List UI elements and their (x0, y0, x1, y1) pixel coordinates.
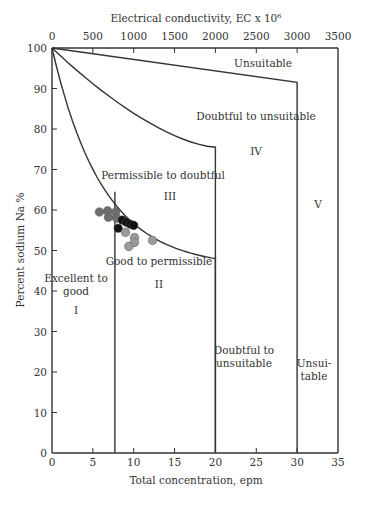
x2-tick-label: 3500 (325, 30, 352, 42)
top-axis-title: Electrical conductivity, EC x 10⁶ (110, 12, 281, 24)
y-tick-label: 0 (40, 447, 47, 459)
doubtful-to-unsuitable-label: Doubtful to unsuitable (196, 110, 315, 122)
zone-iii-label: III (164, 190, 176, 202)
zone-iv-label: IV (250, 145, 262, 157)
zone-labels: UnsuitableDoubtful to unsuitableIVPermis… (44, 57, 332, 382)
y-tick-label: 100 (27, 42, 47, 54)
y-tick-label: 30 (34, 326, 47, 338)
y-tick-label: 60 (34, 204, 47, 216)
excellent-to-good-label: good (63, 285, 89, 297)
sample-point (125, 242, 134, 251)
doubtful-to-unsuitable-bottom-label: unsuitable (216, 357, 272, 369)
x2-tick-label: 0 (49, 30, 56, 42)
x-tick-label: 10 (127, 456, 140, 468)
x2-tick-label: 1500 (161, 30, 188, 42)
x-tick-label: 35 (331, 456, 344, 468)
x2-tick-label: 1000 (120, 30, 147, 42)
doubtful-boundary (52, 48, 215, 453)
sample-point (104, 213, 113, 222)
unsuitable-bottom-label: table (301, 370, 328, 382)
x-tick-label: 5 (90, 456, 97, 468)
wilcox-sodium-diagram: 0510152025303505001000150020002500300035… (0, 0, 373, 505)
x2-tick-label: 2500 (243, 30, 270, 42)
sample-point (121, 228, 130, 237)
excellent-to-good-label: Excellent to (44, 272, 107, 284)
sample-points (95, 207, 157, 251)
plot-frame (52, 48, 338, 453)
y-tick-label: 10 (34, 407, 47, 419)
sample-point (95, 208, 104, 217)
y-tick-label: 50 (34, 245, 47, 257)
unsuitable-bottom-label: Unsui- (297, 357, 332, 369)
y-tick-label: 80 (34, 123, 47, 135)
sample-point (129, 221, 138, 230)
y-tick-label: 20 (34, 366, 47, 378)
x-tick-label: 15 (168, 456, 181, 468)
zone-i-label: I (74, 304, 78, 316)
permissible-to-doubtful-label: Permissible to doubtful (101, 169, 225, 181)
x-tick-label: 30 (290, 456, 303, 468)
x-tick-label: 25 (250, 456, 263, 468)
tick-labels: 0510152025303505001000150020002500300035… (27, 30, 351, 468)
x-tick-label: 0 (49, 456, 56, 468)
x-tick-label: 20 (209, 456, 222, 468)
doubtful-to-unsuitable-bottom-label: Doubtful to (214, 344, 274, 356)
x2-tick-label: 2000 (202, 30, 229, 42)
x2-tick-label: 500 (83, 30, 103, 42)
good-to-permissible-label: Good to permissible (106, 255, 213, 267)
classification-boundaries (52, 48, 297, 453)
x2-tick-label: 3000 (284, 30, 311, 42)
axis-ticks (52, 48, 297, 453)
y-tick-label: 90 (34, 83, 47, 95)
sample-point (148, 236, 157, 245)
unsuitable-boundary (52, 48, 297, 453)
zone-v-label: V (313, 198, 322, 210)
permissible-boundary (52, 48, 215, 453)
x-axis-title: Total concentration, epm (129, 474, 262, 486)
y-tick-label: 40 (34, 285, 47, 297)
zone-ii-label: II (155, 278, 163, 290)
y-axis-title: Percent sodium Na % (14, 193, 26, 308)
unsuitable-label: Unsuitable (234, 57, 292, 69)
y-tick-label: 70 (34, 164, 47, 176)
